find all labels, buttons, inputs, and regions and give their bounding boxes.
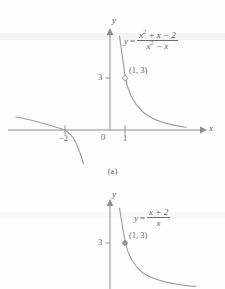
equation-a-numerator: x2 + x − 2 [137, 30, 178, 40]
hole-marker-1-3 [123, 76, 128, 81]
equation-a-lhs: y [124, 36, 128, 46]
equation-a-equals: = [130, 36, 135, 46]
equation-b-fraction: x + 2 x [147, 207, 170, 229]
equation-b-numerator: x + 2 [147, 207, 170, 217]
graph-b: y 3 (1, 3) y = x + 2 x [0, 190, 225, 289]
curve-left-branch-a [16, 117, 84, 164]
y-axis-label-b: y [112, 190, 116, 199]
graph-b-canvas [0, 190, 225, 289]
equation-a: y = x2 + x − 2 x2 − x [124, 30, 178, 52]
equation-a-num-post: + x − 2 [146, 30, 176, 40]
x-axis-label: x [209, 124, 213, 133]
graph-a: y x 3 −2 0 1 (1, 3) y = x2 + x − 2 x2 − … [0, 0, 225, 165]
y-axis-label: y [112, 16, 116, 25]
equation-b: y = x + 2 x [134, 207, 170, 229]
equation-a-fraction: x2 + x − 2 x2 − x [137, 30, 178, 52]
point-label-1-3-b: (1, 3) [129, 231, 147, 240]
figure-page: y x 3 −2 0 1 (1, 3) y = x2 + x − 2 x2 − … [0, 0, 225, 289]
x-axis-arrow [200, 127, 207, 134]
equation-a-den-post: − x [154, 41, 169, 51]
equation-b-equals: = [140, 213, 145, 223]
x-tick-label-neg2: −2 [59, 134, 68, 143]
point-label-1-3-a: (1, 3) [129, 66, 147, 75]
x-tick-label-0: 0 [101, 133, 105, 142]
equation-a-denominator: x2 − x [145, 41, 171, 51]
point-marker-1-3-b [123, 241, 128, 246]
y-axis-arrow [107, 28, 114, 35]
equation-b-lhs: y [134, 213, 138, 223]
y-tick-label-3-b: 3 [98, 238, 102, 247]
y-tick-label-3: 3 [98, 73, 102, 82]
y-axis-arrow-b [107, 199, 114, 206]
caption-a: (a) [0, 166, 225, 176]
x-tick-label-1: 1 [123, 134, 127, 143]
equation-b-denominator: x [155, 218, 163, 228]
